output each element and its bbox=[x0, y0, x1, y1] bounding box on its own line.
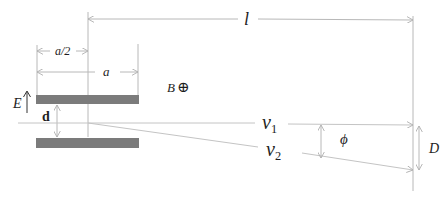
v1-trajectory-right bbox=[288, 124, 413, 125]
v2-trajectory-right bbox=[302, 153, 413, 170]
magnetic-field-label: B⊕ bbox=[167, 80, 190, 95]
v1-label: v1 bbox=[262, 112, 277, 136]
v1-subscript: 1 bbox=[271, 122, 277, 136]
v2-label: v2 bbox=[266, 139, 281, 163]
length-l-arrow-right bbox=[258, 19, 413, 20]
half-plate-label: a/2 bbox=[55, 45, 70, 57]
deflection-d-label: D bbox=[429, 142, 439, 156]
electric-field-label: E bbox=[13, 97, 22, 111]
angle-phi-label: ϕ bbox=[340, 132, 348, 147]
v2-subscript: 2 bbox=[275, 149, 281, 163]
diagram-lines bbox=[0, 0, 448, 197]
into-page-icon: ⊕ bbox=[177, 79, 190, 95]
plate-length-label: a bbox=[103, 65, 110, 78]
magnetic-field-letter: B bbox=[167, 80, 175, 95]
v2-letter: v bbox=[266, 138, 275, 160]
length-l-label: l bbox=[244, 10, 249, 28]
v1-letter: v bbox=[262, 111, 271, 133]
plate-gap-label: d bbox=[42, 110, 50, 124]
diagram-canvas: l a/2 a B⊕ E d v1 v2 ϕ D bbox=[0, 0, 448, 197]
top-plate bbox=[36, 95, 139, 104]
bottom-plate bbox=[36, 138, 139, 148]
